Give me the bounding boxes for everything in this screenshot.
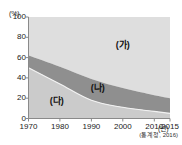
x-tick-label: 2000 bbox=[114, 122, 132, 131]
x-tick-label: 1970 bbox=[20, 122, 38, 131]
x-tick-label: 1980 bbox=[51, 122, 69, 131]
source-citation: (통계청, 2016) bbox=[139, 132, 178, 139]
x-axis-tick-labels: 197019801990200020102015 bbox=[0, 120, 182, 132]
area-chart-figure: (%) 020406080100 19701980199020002010201… bbox=[0, 0, 182, 145]
band-label-3: (다) bbox=[50, 96, 64, 106]
x-tick-label: 1990 bbox=[82, 122, 100, 131]
band-label-1: (가) bbox=[116, 40, 130, 50]
band-label-2: (나) bbox=[91, 83, 105, 93]
